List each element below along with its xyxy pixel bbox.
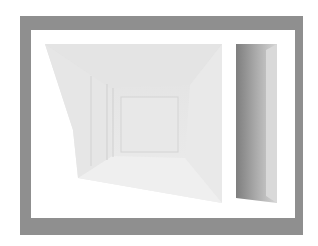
inner-square: [121, 97, 178, 152]
right-panel: [236, 44, 277, 203]
artwork-render: [0, 0, 318, 246]
left-panel: [45, 44, 222, 203]
